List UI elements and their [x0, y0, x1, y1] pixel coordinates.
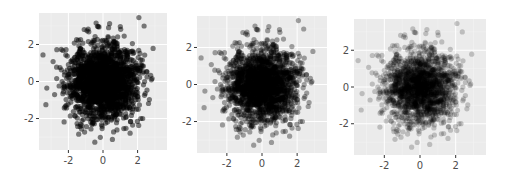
y-axis: -202 [339, 45, 354, 130]
scatter-plot-3: -202-202 [0, 0, 510, 186]
x-tick-label: -2 [379, 160, 389, 171]
x-axis: -202 [379, 155, 459, 171]
y-tick-label: 2 [343, 45, 349, 56]
x-tick-label: 0 [417, 160, 423, 171]
y-tick-label: -2 [339, 118, 349, 129]
scatter-panel-3: -202-202 [0, 0, 510, 186]
x-tick-label: 2 [452, 160, 458, 171]
y-tick-label: 0 [343, 82, 349, 93]
